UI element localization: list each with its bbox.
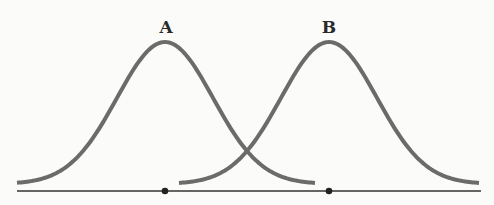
mean-marker-a — [162, 188, 169, 195]
distribution-curve-a — [17, 42, 315, 183]
overlapping-distributions-diagram — [0, 0, 494, 205]
distribution-curve-b — [179, 42, 479, 183]
mean-marker-b — [326, 188, 333, 195]
curve-label-b: B — [322, 19, 336, 36]
curve-label-a: A — [159, 19, 172, 36]
